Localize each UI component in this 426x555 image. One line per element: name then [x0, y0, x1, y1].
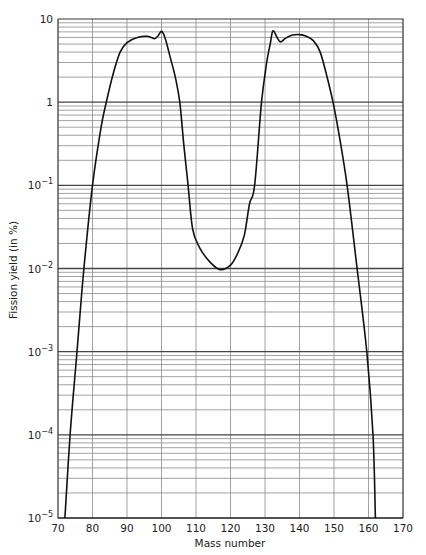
x-tick-label: 70: [51, 522, 64, 534]
y-axis-label: Fission yield (in %): [7, 221, 19, 319]
x-tick-label: 100: [151, 522, 171, 534]
y-tick-label: 10−3: [28, 344, 53, 358]
x-tick-label: 140: [289, 522, 309, 534]
x-tick-label: 160: [358, 522, 378, 534]
x-tick-label: 120: [220, 522, 240, 534]
x-tick-label: 170: [393, 522, 413, 534]
x-tick-label: 130: [255, 522, 275, 534]
x-tick-label: 110: [186, 522, 206, 534]
x-tick-label: 90: [120, 522, 133, 534]
y-tick-label: 10−2: [28, 261, 53, 275]
y-tick-label: 1: [46, 96, 53, 108]
x-axis-label: Mass number: [195, 537, 266, 549]
x-tick-label: 150: [324, 522, 344, 534]
y-tick-label: 10−5: [28, 510, 53, 524]
fission-yield-chart: 708090100110120130140150160170 10110−110…: [0, 0, 426, 555]
y-axis-tick-labels: 10110−110−210−310−410−5: [28, 13, 53, 524]
y-tick-label: 10−1: [28, 177, 53, 191]
y-tick-label: 10−4: [28, 427, 53, 441]
x-tick-label: 80: [86, 522, 99, 534]
fission-yield-curve: [65, 31, 376, 518]
y-tick-label: 10: [40, 13, 53, 25]
grid-lines: [58, 19, 403, 518]
x-axis-tick-labels: 708090100110120130140150160170: [51, 522, 413, 534]
